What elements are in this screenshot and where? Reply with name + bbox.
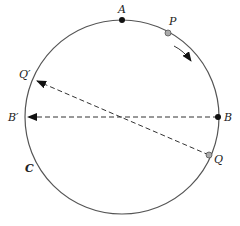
label-bprime: B′ — [7, 111, 19, 124]
clockwise-arrow-icon — [174, 46, 191, 61]
point-b — [215, 114, 221, 120]
dashed-arrow-q-to-qprime — [37, 81, 209, 155]
label-q: Q — [214, 153, 223, 166]
label-b: B — [223, 111, 232, 124]
point-q — [206, 152, 212, 158]
label-p: P — [168, 15, 177, 28]
label-a: A — [117, 3, 126, 16]
diagram-canvas: A P B Q B′ Q′ C — [0, 0, 240, 226]
label-qprime: Q′ — [19, 68, 31, 81]
label-c: C — [25, 162, 34, 175]
point-p — [165, 30, 171, 36]
point-a — [119, 17, 125, 23]
